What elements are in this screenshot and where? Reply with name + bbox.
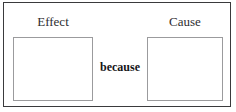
cause-input-box[interactable] xyxy=(147,37,223,101)
effect-slot-label: Effect xyxy=(13,15,93,28)
effect-input-box[interactable] xyxy=(13,37,93,101)
cause-effect-diagram-frame: Effect because Cause xyxy=(3,2,231,107)
cause-slot-label: Cause xyxy=(147,15,223,28)
because-connector-label: because xyxy=(93,61,147,73)
